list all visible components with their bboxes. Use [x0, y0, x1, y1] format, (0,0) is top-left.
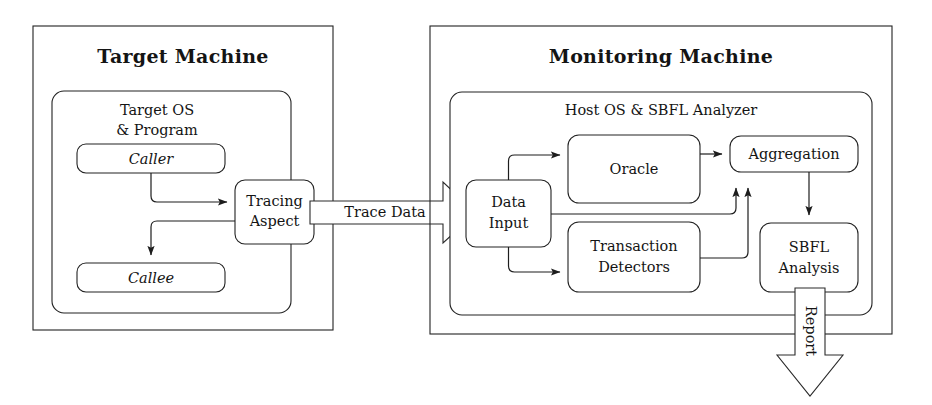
- aggregation-label: Aggregation: [747, 146, 839, 162]
- sbfl-analysis-label-line1: SBFL: [789, 239, 830, 255]
- transaction-detectors-label-line1: Transaction: [590, 238, 677, 254]
- data-input-label-line2: Input: [489, 215, 529, 231]
- tracing-aspect-label-line1: Tracing: [246, 193, 303, 209]
- target-os-title-line1: Target OS: [120, 102, 194, 118]
- data-input-node[interactable]: [466, 180, 551, 247]
- sbfl-analysis-node[interactable]: [760, 223, 858, 292]
- transaction-detectors-label-line2: Detectors: [598, 259, 670, 275]
- monitoring-machine-title: Monitoring Machine: [549, 45, 773, 67]
- tracing-aspect-label-line2: Aspect: [249, 213, 300, 229]
- host-os-title: Host OS & SBFL Analyzer: [565, 102, 758, 118]
- architecture-diagram: Target Machine Target OS & Program Calle…: [0, 0, 932, 405]
- callee-node-label: Callee: [128, 270, 174, 286]
- data-input-label-line1: Data: [491, 194, 526, 210]
- trace-data-label: Trace Data: [344, 204, 426, 220]
- target-machine-title: Target Machine: [97, 45, 268, 67]
- caller-node-label: Caller: [129, 151, 175, 167]
- transaction-detectors-node[interactable]: [568, 222, 700, 292]
- target-os-title-line2: & Program: [116, 122, 198, 138]
- diagram-canvas: Target Machine Target OS & Program Calle…: [0, 0, 932, 405]
- sbfl-analysis-label-line2: Analysis: [778, 260, 840, 276]
- oracle-label: Oracle: [610, 161, 659, 177]
- report-label: Report: [803, 306, 819, 356]
- tracing-aspect-node[interactable]: [235, 180, 314, 244]
